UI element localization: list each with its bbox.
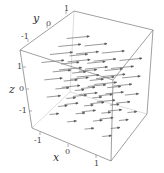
y-axis-title: y <box>33 13 39 24</box>
y-tick-0: 0 <box>46 20 51 28</box>
z-tick-1: 1 <box>17 63 22 71</box>
x-tick-1: 1 <box>94 160 99 168</box>
x-tick-neg1: -1 <box>34 137 42 145</box>
y-tick-1: 1 <box>64 5 69 13</box>
z-tick-neg1: -1 <box>19 107 27 115</box>
y-tick-neg1: -1 <box>21 33 29 41</box>
x-tick-0: 0 <box>65 148 70 156</box>
vector-arrows <box>42 36 143 137</box>
z-tick-0: 0 <box>19 85 24 93</box>
x-axis-title: x <box>53 152 59 163</box>
vector-field-plot <box>0 0 164 173</box>
z-axis-title: z <box>9 84 15 95</box>
